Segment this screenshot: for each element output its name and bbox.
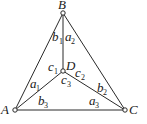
svg-text:3: 3 [67,80,71,89]
angle-label-c2: c 2 [75,65,85,82]
node-c [123,108,127,112]
svg-text:1: 1 [59,37,63,46]
svg-text:1: 1 [36,84,40,93]
triangle-diagram: A B C D b 1 a 2 c 1 c 2 c 3 a 1 b 2 b 3 … [0,0,147,124]
svg-text:2: 2 [71,37,75,46]
angle-label-a1: a 1 [30,76,40,93]
svg-text:3: 3 [44,101,48,110]
angle-label-a2: a 2 [65,29,75,46]
node-a [13,108,17,112]
angle-label-c1: c 1 [48,59,58,76]
vertex-label-b: B [58,0,66,12]
angle-label-b2: b 2 [97,80,107,97]
svg-text:b: b [52,29,59,44]
vertex-label-a: A [0,102,9,117]
angle-label-b3: b 3 [38,93,48,110]
svg-text:2: 2 [103,88,107,97]
svg-text:1: 1 [54,67,58,76]
angle-label-b1: b 1 [52,29,63,46]
vertex-label-c: C [129,102,138,117]
svg-text:2: 2 [81,73,85,82]
angle-label-a3: a 3 [89,93,99,110]
svg-text:3: 3 [95,101,99,110]
